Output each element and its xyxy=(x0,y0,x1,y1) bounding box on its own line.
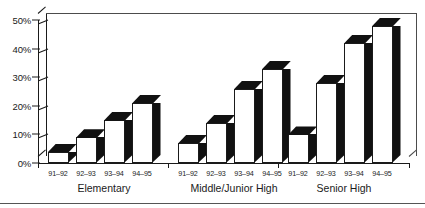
bar[interactable] xyxy=(288,134,309,163)
bar-front-face xyxy=(206,123,227,163)
bar-slot xyxy=(316,13,337,163)
bar[interactable] xyxy=(316,83,337,163)
bar-chart: 50% 40% 30% 20% 10% 0% xyxy=(0,0,425,208)
bar-front-face xyxy=(234,89,255,163)
bar-slot xyxy=(372,13,393,163)
group-label-senior-high: Senior High xyxy=(317,182,372,194)
x-separator xyxy=(278,163,279,168)
x-tick-label: 93–94 xyxy=(104,169,124,178)
bar-front-face xyxy=(372,26,393,163)
x-tick-label: 93–94 xyxy=(344,169,364,178)
x-tick-label: 94–95 xyxy=(132,169,152,178)
bar[interactable] xyxy=(262,69,283,163)
y-tick-label-10: 10% xyxy=(13,129,31,140)
group-label-middle-junior-high: Middle/Junior High xyxy=(191,182,278,194)
bar-front-face xyxy=(316,83,337,163)
bar-slot xyxy=(262,13,283,163)
bar-front-face xyxy=(262,69,283,163)
bar-front-face xyxy=(132,103,153,163)
bar-slot xyxy=(132,13,153,163)
bar-side-face xyxy=(392,26,401,163)
bar-group-elementary xyxy=(48,13,160,163)
group-label-elementary: Elementary xyxy=(77,182,130,194)
bar[interactable] xyxy=(234,89,255,163)
y-tick-label-50: 50% xyxy=(13,15,31,26)
x-tick-label: 91–92 xyxy=(178,169,198,178)
bar-slot xyxy=(48,13,69,163)
y-tick-label-20: 20% xyxy=(13,100,31,111)
x-separator xyxy=(168,163,169,168)
plot-area xyxy=(38,13,417,163)
y-tick-label-40: 40% xyxy=(13,43,31,54)
bar[interactable] xyxy=(104,120,125,163)
bar[interactable] xyxy=(76,137,97,163)
x-tick-label: 94–95 xyxy=(372,169,392,178)
bar-slot xyxy=(178,13,199,163)
x-tick-label: 93–94 xyxy=(234,169,254,178)
bar-group-senior-high xyxy=(288,13,400,163)
bar[interactable] xyxy=(48,152,69,163)
bar-side-face xyxy=(152,103,161,163)
bar-group-middle-junior-high xyxy=(178,13,290,163)
bar[interactable] xyxy=(344,43,365,163)
bar-front-face xyxy=(344,43,365,163)
y-tick-label-30: 30% xyxy=(13,72,31,83)
bar-slot xyxy=(288,13,309,163)
bar-front-face xyxy=(104,120,125,163)
x-separator xyxy=(409,163,410,168)
bar-front-face xyxy=(288,134,309,163)
bar-slot xyxy=(206,13,227,163)
x-tick-label: 92–93 xyxy=(206,169,226,178)
x-separator xyxy=(38,163,39,168)
x-tick-label: 92–93 xyxy=(76,169,96,178)
bar-slot xyxy=(344,13,365,163)
bar-front-face xyxy=(76,137,97,163)
x-tick-label: 94–95 xyxy=(262,169,282,178)
bar-front-face xyxy=(178,143,199,163)
bar-slot xyxy=(234,13,255,163)
bar[interactable] xyxy=(178,143,199,163)
x-tick-label: 91–92 xyxy=(288,169,308,178)
bottom-divider xyxy=(0,203,425,204)
bar[interactable] xyxy=(372,26,393,163)
x-tick-label: 92–93 xyxy=(316,169,336,178)
bar-slot xyxy=(104,13,125,163)
y-tick-label-0: 0% xyxy=(18,158,31,169)
bar[interactable] xyxy=(132,103,153,163)
bar[interactable] xyxy=(206,123,227,163)
bar-slot xyxy=(76,13,97,163)
x-tick-label: 91–92 xyxy=(48,169,68,178)
bar-front-face xyxy=(48,152,69,163)
